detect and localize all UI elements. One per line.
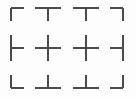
grid-mark-tee-left — [110, 35, 123, 61]
grid-mark-tee-up — [35, 75, 61, 88]
grid-mark-corner-top-right — [110, 8, 123, 21]
grid-marks-group — [0, 0, 136, 97]
grid-mark-cross — [73, 35, 99, 61]
grid-mark-tee-down — [73, 8, 99, 21]
grid-mark-corner-bottom-right — [110, 75, 123, 88]
grid-mark-tee-up — [73, 75, 99, 88]
figure-canvas — [0, 0, 136, 97]
grid-mark-tee-right — [11, 35, 24, 61]
grid-mark-tee-down — [35, 8, 61, 21]
grid-mark-cross — [35, 35, 61, 61]
grid-mark-corner-top-left — [11, 8, 24, 21]
grid-mark-corner-bottom-left — [11, 75, 24, 88]
